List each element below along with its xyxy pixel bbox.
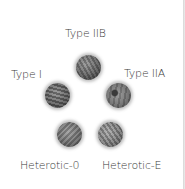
label-heterotic-e: Heterotic-E — [102, 160, 161, 172]
label-heterotic-o: Heterotic-0 — [20, 160, 79, 172]
type-i-sphere-icon — [45, 83, 70, 108]
label-type-iib: Type IIB — [65, 28, 106, 40]
label-type-iia: Type IIA — [124, 68, 165, 80]
heterotic-e-sphere-icon — [98, 122, 123, 147]
page-edge-divider — [183, 0, 185, 189]
heterotic-o-sphere-icon — [57, 122, 82, 147]
type-iib-sphere-icon — [76, 55, 101, 80]
type-iia-sphere-icon — [106, 83, 131, 108]
diagram-canvas: Type IIB Type I Type IIA Heterotic-0 Het… — [0, 0, 185, 189]
label-type-i: Type I — [11, 69, 42, 81]
